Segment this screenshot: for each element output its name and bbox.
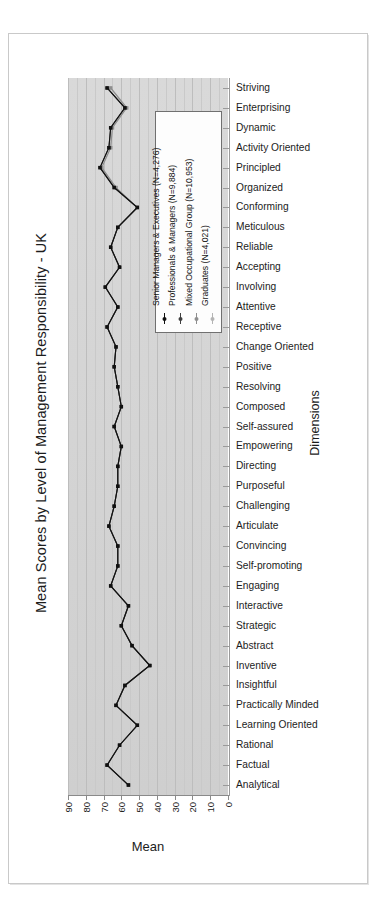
y-tick [223,685,229,686]
x-tick [104,795,105,800]
legend-marker-icon [207,313,218,324]
data-point [120,624,123,627]
y-axis-category-label: Factual [236,760,269,770]
data-point [118,266,121,269]
legend-marker-icon [175,313,186,324]
x-tick [68,795,69,800]
legend-marker-icon [191,313,202,324]
y-tick [223,427,229,428]
y-axis-category-label: Analytical [236,780,280,790]
legend-label: Professionals & Managers (N=9,884) [167,165,177,306]
legend-label: Graduates (N=4,021) [200,225,210,306]
data-point [113,186,116,189]
data-point [116,226,119,229]
y-axis-category-label: Positive [236,362,272,372]
y-axis-category-label: Reliable [236,242,273,252]
x-tick [157,795,158,800]
x-tick-label-text: 50 [134,802,145,813]
y-axis-category-label: Interactive [236,601,283,611]
data-point [136,206,139,209]
y-axis-title-text: Dimensions [308,390,322,455]
y-axis-title-wrap: Dimensions [304,363,326,483]
y-axis-category-label: Organized [236,183,283,193]
data-point [123,106,126,109]
data-point [109,126,112,129]
y-tick [223,128,229,129]
y-tick [223,526,229,527]
y-axis-category-label: Practically Minded [236,700,319,710]
data-point [116,485,119,488]
data-point [130,644,133,647]
y-axis-category-label: Directing [236,461,276,471]
data-point [113,425,116,428]
data-point [104,285,107,288]
y-tick [223,88,229,89]
chart-figure: Mean Scores by Level of Management Respo… [8,33,368,884]
y-axis-category-label: Attentive [236,302,276,312]
data-point [120,405,123,408]
legend-marker-icon [159,313,170,324]
y-tick [223,327,229,328]
x-tick-label-text: 60 [116,802,127,813]
legend-marker-dot [195,317,199,321]
y-axis-category-label: Purposeful [236,481,285,491]
x-tick [175,795,176,800]
x-tick [210,795,211,800]
data-point [105,325,108,328]
y-tick [223,725,229,726]
y-axis-category-label: Enterprising [236,103,290,113]
y-tick [223,148,229,149]
y-tick [223,207,229,208]
data-point [114,345,117,348]
y-tick [223,745,229,746]
x-tick-label-text: 40 [152,802,163,813]
x-tick-label-text: 10 [205,802,216,813]
series-line [102,88,150,785]
x-axis-line [68,795,229,796]
x-axis-title: Mean [48,839,248,854]
y-axis-line [229,78,230,796]
y-tick [223,606,229,607]
data-point [123,684,126,687]
y-axis-category-label: Rational [236,740,273,750]
y-axis-category-label: Change Oriented [236,342,314,352]
y-tick [223,407,229,408]
data-point [127,604,130,607]
data-point [116,465,119,468]
series-line [102,88,150,785]
y-axis-category-label: Convincing [236,541,286,551]
y-axis-category-label: Strategic [236,621,276,631]
y-tick [223,188,229,189]
chart-title-text: Mean Scores by Level of Management Respo… [33,233,49,613]
y-axis-category-label: Conforming [236,202,289,212]
data-point [98,166,101,169]
y-axis-category-label: Engaging [236,581,279,591]
data-point [107,524,110,527]
y-axis-category-label: Resolving [236,382,281,392]
y-axis-category-label: Learning Oriented [236,720,318,730]
x-tick [121,795,122,800]
y-axis-category-label: Accepting [236,262,281,272]
y-axis-category-label: Self-assured [236,422,293,432]
y-tick [223,108,229,109]
data-point [105,86,108,89]
data-point [109,246,112,249]
legend-entry: Graduates (N=4,021) [205,112,221,332]
x-tick [192,795,193,800]
y-tick [223,566,229,567]
data-point [116,385,119,388]
y-tick [223,666,229,667]
legend-entries: Senior Managers & Executives (N=4,276)Pr… [156,112,221,332]
legend-label: Senior Managers & Executives (N=4,276) [151,148,161,306]
y-tick [223,506,229,507]
legend-marker-dot [162,317,166,321]
y-tick [223,486,229,487]
y-axis-category-label: Challenging [236,501,290,511]
y-axis-category-label: Self-promoting [236,561,302,571]
y-axis-category-label: Involving [236,282,276,292]
y-axis-category-label: Empowering [236,441,293,451]
legend: Senior Managers & Executives (N=4,276)Pr… [155,111,222,333]
y-tick [223,387,229,388]
data-point [105,763,108,766]
x-tick [139,795,140,800]
